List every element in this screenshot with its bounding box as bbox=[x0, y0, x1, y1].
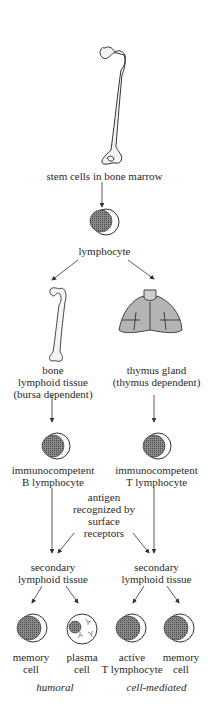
active-t-label-2: T lymphocyte bbox=[100, 663, 164, 675]
thymus-label-2: (thymus dependent) bbox=[104, 376, 209, 388]
bone-label-1: bone bbox=[0, 364, 106, 376]
t-cell-label-1: immunocompetent bbox=[104, 464, 209, 476]
secondary-right-label-2: lymphoid tissue bbox=[104, 573, 209, 585]
antigen-label-1: antigen bbox=[52, 491, 156, 503]
antigen-label-4: receptors bbox=[52, 527, 156, 539]
antigen-label-2: recognized by bbox=[52, 503, 156, 515]
secondary-left-label-2: lymphoid tissue bbox=[0, 573, 106, 585]
memory-cell-icon bbox=[164, 614, 194, 642]
memory-cell-icon bbox=[17, 614, 47, 642]
arrow bbox=[32, 586, 42, 603]
memory-right-label-2: cell bbox=[156, 663, 206, 675]
diagram-graphics bbox=[0, 0, 209, 705]
thymus-label-1: thymus gland bbox=[104, 364, 209, 376]
stem-cells-label: stem cells in bone marrow bbox=[0, 170, 209, 182]
antigen-label-3: surface bbox=[52, 515, 156, 527]
arrow bbox=[66, 586, 78, 603]
cell-mediated-label: cell-mediated bbox=[104, 681, 209, 693]
femur-icon bbox=[100, 47, 125, 164]
b-cell-label-1: immunocompetent bbox=[0, 464, 106, 476]
bone-label-2: lymphoid tissue bbox=[0, 376, 106, 388]
b-lymphocyte-icon bbox=[42, 433, 70, 459]
active-t-label-1: active bbox=[100, 651, 164, 663]
arrow bbox=[133, 586, 144, 603]
arrow bbox=[128, 260, 154, 279]
arrow bbox=[52, 260, 78, 280]
memory-left-label-2: cell bbox=[6, 663, 56, 675]
active-t-lymphocyte-icon bbox=[116, 614, 146, 642]
t-cell-label-2: T lymphocyte bbox=[104, 476, 209, 488]
lymphocyte-label: lymphocyte bbox=[0, 245, 209, 257]
memory-left-label-1: memory bbox=[6, 651, 56, 663]
b-cell-label-2: B lymphocyte bbox=[0, 476, 106, 488]
bone-label-3: (bursa dependent) bbox=[0, 388, 106, 400]
thymus-icon bbox=[119, 290, 182, 333]
secondary-left-label-1: secondary bbox=[0, 561, 106, 573]
bone-icon bbox=[49, 288, 66, 361]
memory-right-label-1: memory bbox=[156, 651, 206, 663]
plasma-cell-icon bbox=[67, 614, 97, 644]
arrow bbox=[167, 586, 179, 603]
t-lymphocyte-icon bbox=[143, 433, 171, 459]
humoral-label: humoral bbox=[0, 681, 110, 693]
secondary-right-label-1: secondary bbox=[104, 561, 209, 573]
lymphocyte-cell-icon bbox=[90, 209, 119, 235]
